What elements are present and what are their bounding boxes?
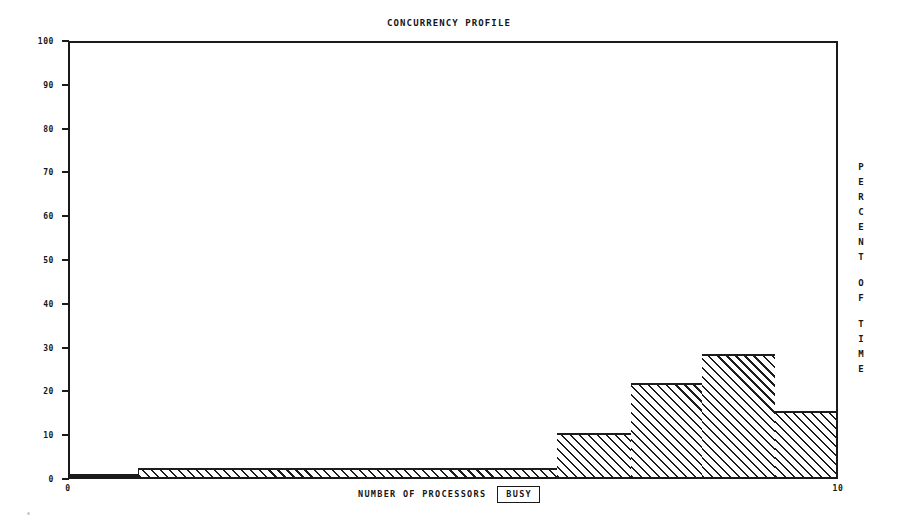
y-tick-label-10: 10 [43, 431, 54, 440]
right-label-char: F [858, 291, 863, 306]
y-tick-label-30: 30 [43, 343, 54, 352]
y-tick-label-70: 70 [43, 168, 54, 177]
histogram-step [702, 354, 774, 477]
y-tick-label-0: 0 [49, 475, 54, 484]
right-label-char: M [858, 347, 863, 362]
x-tick-label-0: 0 [65, 484, 70, 493]
right-label-char: E [858, 175, 863, 190]
histogram-step [138, 468, 558, 477]
x-tick-label-10: 10 [833, 484, 844, 493]
histogram-step [775, 411, 836, 477]
right-label-char: R [858, 190, 863, 205]
chart-title: CONCURRENCY PROFILE [0, 18, 898, 28]
y-axis-right-label: PERCENTOFTIME [848, 160, 874, 377]
plot-area [70, 43, 836, 477]
right-label-word: PERCENT [858, 160, 863, 265]
right-label-char: T [858, 317, 863, 332]
right-label-word: OF [858, 276, 863, 306]
x-axis-label-busy-box: BUSY [497, 486, 540, 503]
right-label-char: I [858, 332, 863, 347]
x-axis-label: NUMBER OF PROCESSORS BUSY [0, 486, 898, 503]
y-tick-label-20: 20 [43, 387, 54, 396]
right-label-word: TIME [858, 317, 863, 377]
y-axis: 0102030405060708090100 [0, 0, 68, 527]
chart-canvas: CONCURRENCY PROFILE 01020304050607080901… [0, 0, 898, 527]
y-tick-label-50: 50 [43, 256, 54, 265]
right-label-char: E [858, 220, 863, 235]
right-label-char: P [858, 160, 863, 175]
plot-frame [68, 41, 838, 479]
y-tick-label-40: 40 [43, 299, 54, 308]
histogram-step [557, 433, 630, 477]
y-tick-label-90: 90 [43, 80, 54, 89]
y-tick-label-80: 80 [43, 124, 54, 133]
right-label-char: C [858, 205, 863, 220]
page-speck [27, 512, 30, 515]
right-label-char: T [858, 250, 863, 265]
right-label-char: O [858, 276, 863, 291]
y-tick-label-60: 60 [43, 212, 54, 221]
right-label-char: E [858, 362, 863, 377]
y-tick-label-100: 100 [38, 37, 54, 46]
right-label-char: N [858, 235, 863, 250]
histogram-step [631, 383, 703, 477]
x-axis-label-text: NUMBER OF PROCESSORS [358, 489, 486, 499]
